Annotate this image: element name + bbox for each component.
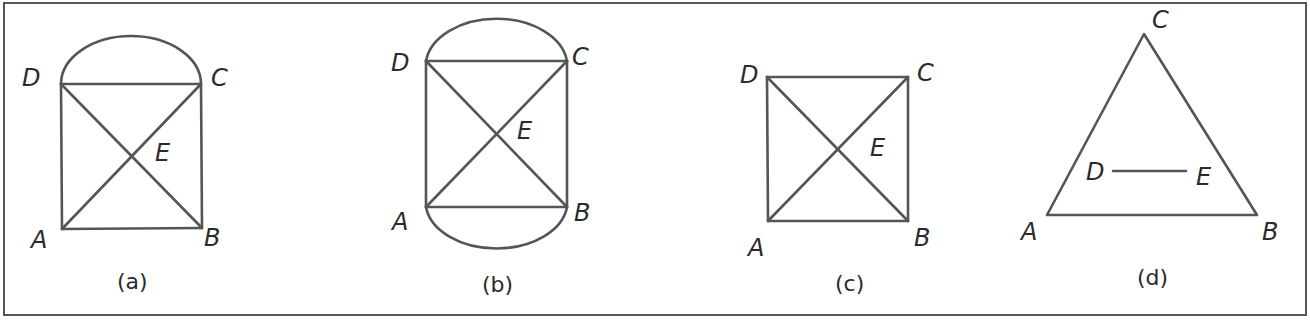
label-a: A [29, 226, 47, 254]
caption-d: (d) [1137, 265, 1168, 290]
label-b: B [914, 224, 930, 252]
label-e: E [155, 139, 171, 167]
panel-a: D C E A B (a) [22, 36, 228, 294]
semicircle-dc [61, 36, 201, 84]
semicircle-ab [426, 207, 567, 248]
side-da [767, 77, 768, 221]
panel-d: C D E A B (d) [1019, 6, 1278, 290]
label-d: D [740, 61, 758, 89]
side-cb [201, 84, 202, 228]
label-e: E [517, 117, 533, 145]
label-d: D [22, 64, 40, 92]
triangle-abc [1047, 34, 1257, 215]
label-a: A [390, 208, 408, 236]
label-d: D [391, 49, 409, 77]
label-b: B [1262, 218, 1278, 246]
label-a: A [746, 234, 764, 262]
label-a: A [1019, 218, 1037, 246]
caption-c: (c) [835, 271, 864, 296]
semicircle-dc [426, 19, 567, 61]
geometry-figure: D C E A B (a) D C E A B (b) D C E A B (c… [0, 0, 1310, 322]
panel-c: D C E A B (c) [740, 59, 934, 296]
label-b: B [574, 199, 590, 227]
label-d: D [1086, 158, 1104, 186]
label-e: E [1196, 163, 1212, 191]
caption-a: (a) [117, 269, 148, 294]
label-e: E [870, 134, 886, 162]
side-ab [62, 228, 202, 229]
caption-b: (b) [482, 272, 513, 297]
panel-b: D C E A B (b) [390, 19, 590, 297]
label-c: C [211, 64, 228, 92]
figure-frame [4, 3, 1306, 315]
side-da [61, 84, 62, 229]
label-c: C [1152, 6, 1169, 34]
label-c: C [572, 43, 589, 71]
label-b: B [204, 224, 220, 252]
label-c: C [917, 59, 934, 87]
